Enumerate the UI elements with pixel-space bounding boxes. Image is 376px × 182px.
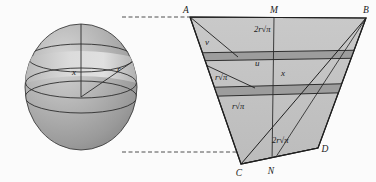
label-top-width: 2r√π: [254, 24, 271, 34]
label-v: v: [205, 37, 209, 47]
label-r-sqrt-pi-upper: r√π: [215, 72, 228, 82]
vertex-label-A: A: [182, 5, 189, 15]
sphere-label-x: x: [71, 67, 76, 77]
sphere-group: x r: [25, 24, 137, 150]
label-u: u: [255, 58, 260, 68]
label-x: x: [280, 68, 285, 78]
label-bottom-width: 2r√π: [272, 135, 289, 145]
vertex-label-M: M: [269, 5, 279, 15]
label-r-sqrt-pi-lower: r√π: [232, 101, 245, 111]
vertex-label-D: D: [321, 144, 329, 154]
vertex-label-C: C: [236, 168, 243, 178]
vertex-label-N: N: [267, 166, 275, 176]
figure-root: x r: [0, 0, 376, 182]
vertex-label-B: B: [363, 5, 369, 15]
geometry-figure: x r: [0, 0, 376, 182]
sphere-label-r: r: [117, 64, 121, 74]
